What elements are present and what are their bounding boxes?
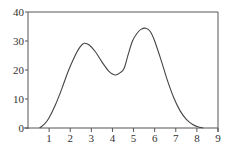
x-tick-label: 7: [173, 132, 179, 144]
x-tick-label: 1: [46, 132, 52, 144]
x-tick-label: 4: [110, 132, 116, 144]
x-tick-label: 9: [215, 132, 221, 144]
x-tick-label: 2: [67, 132, 73, 144]
x-tick-label: 6: [152, 132, 158, 144]
x-tick-label: 8: [194, 132, 200, 144]
y-tick-label: 10: [13, 93, 25, 105]
line-series-curve: [40, 28, 204, 128]
x-tick-label: 5: [131, 132, 137, 144]
line-chart: 010203040 123456789: [0, 0, 232, 150]
y-tick-label: 20: [13, 64, 25, 76]
y-tick-label: 30: [13, 35, 25, 47]
data-series: [40, 28, 204, 128]
y-tick-label: 0: [19, 122, 25, 134]
y-tick-label: 40: [13, 6, 25, 18]
x-axis-ticks: 123456789: [46, 128, 221, 144]
y-axis-ticks: 010203040: [13, 6, 28, 134]
x-tick-label: 3: [89, 132, 95, 144]
